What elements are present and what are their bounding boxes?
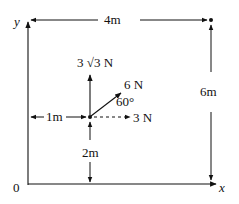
origin-label: 0 <box>13 180 20 195</box>
y-axis-label: y <box>12 14 20 29</box>
dimension-left-offset: 1m <box>31 109 86 124</box>
force-diagram: y x 0 4m 6m 1m 2m 3 √3 N 6 N 60° 3 N <box>0 0 239 204</box>
force-vertical-label: 3 √3 N <box>77 55 114 70</box>
dimension-right-height: 6m <box>200 25 217 180</box>
corner-point <box>209 18 213 22</box>
forces: 3 √3 N 6 N 60° 3 N <box>77 55 153 125</box>
dim-label-2m: 2m <box>82 145 99 160</box>
dimension-top-width: 4m <box>31 12 207 27</box>
x-axis-label: x <box>218 180 225 195</box>
force-horizontal-label: 3 N <box>133 110 153 125</box>
dimension-bottom-offset: 2m <box>82 122 99 182</box>
dim-label-1m: 1m <box>46 109 63 124</box>
angle-label: 60° <box>116 94 134 109</box>
force-inclined-label: 6 N <box>124 77 144 92</box>
dim-label-4m: 4m <box>104 12 121 27</box>
dim-label-6m: 6m <box>200 84 217 99</box>
